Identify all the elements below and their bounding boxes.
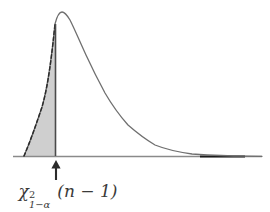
chi-square-figure: χ21−α(n − 1) bbox=[0, 0, 270, 212]
chi-square-distribution-plot bbox=[0, 0, 270, 212]
density-curve bbox=[24, 12, 262, 156]
critical-value-arrow-icon bbox=[51, 160, 60, 180]
shaded-critical-region bbox=[24, 24, 55, 156]
